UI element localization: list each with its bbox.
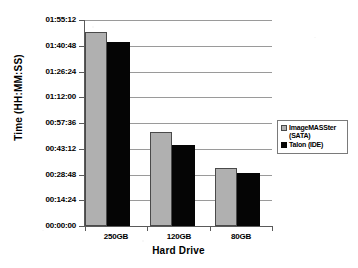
bar-80gb-talon: [237, 173, 260, 226]
y-tick-mark: [79, 123, 85, 124]
bar-120gb-talon: [172, 145, 195, 226]
x-tick-mark: [210, 226, 211, 231]
y-tick-mark: [79, 97, 85, 98]
y-tick-label: 01:55:12: [6, 15, 76, 24]
legend-label: ImageMASSter (SATA): [289, 124, 336, 140]
legend-label-line2: (SATA): [289, 132, 310, 139]
legend-label-line1: Talon (IDE): [289, 141, 323, 148]
y-tick-mark: [79, 175, 85, 176]
x-axis-line: [84, 226, 273, 227]
x-tick-label-250gb: 250GB: [86, 232, 146, 241]
y-tick-label: 00:14:24: [6, 195, 76, 204]
legend-swatch-icon: [281, 142, 287, 148]
y-tick-label: 00:28:48: [6, 170, 76, 179]
bar-chart-figure: 00:00:00 00:14:24 00:28:48 00:43:12 00:5…: [0, 0, 358, 268]
legend-entry-imagemasster: ImageMASSter (SATA): [281, 124, 345, 140]
legend-swatch-icon: [281, 125, 287, 131]
bar-250gb-talon: [107, 42, 130, 226]
y-tick-mark: [79, 200, 85, 201]
x-tick-label-120gb: 120GB: [149, 232, 209, 241]
y-tick-mark: [79, 46, 85, 47]
x-axis-title: Hard Drive: [85, 245, 272, 256]
legend-entry-talon: Talon (IDE): [281, 141, 345, 149]
y-tick-mark: [79, 20, 85, 21]
y-tick-mark: [79, 149, 85, 150]
x-tick-mark: [85, 226, 86, 231]
gridline: [85, 20, 272, 21]
legend-label: Talon (IDE): [289, 141, 323, 149]
plot-area: [85, 20, 272, 226]
bar-80gb-imagemasster: [215, 168, 237, 226]
bar-250gb-imagemasster: [85, 32, 107, 226]
x-tick-mark: [147, 226, 148, 231]
x-tick-mark: [272, 226, 273, 231]
bar-120gb-imagemasster: [150, 132, 172, 226]
chart-legend: ImageMASSter (SATA) Talon (IDE): [277, 120, 348, 154]
y-tick-mark: [79, 72, 85, 73]
x-tick-label-80gb: 80GB: [211, 232, 271, 241]
y-axis-title: Time (HH:MM:SS): [13, 33, 24, 163]
legend-label-line1: ImageMASSter: [289, 124, 336, 131]
y-tick-label: 00:00:00: [6, 221, 76, 230]
